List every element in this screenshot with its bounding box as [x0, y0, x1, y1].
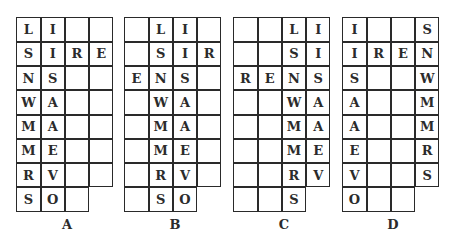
- letter-cell: I: [41, 42, 65, 66]
- letter-cell: R: [197, 42, 221, 66]
- letter-cell: E: [89, 42, 113, 66]
- letter-cell: N: [415, 42, 439, 66]
- letter-cell: M: [149, 139, 173, 163]
- letter-cell: W: [282, 90, 306, 114]
- empty-cell: [391, 17, 415, 41]
- empty-cell: [124, 90, 148, 114]
- empty-cell: [197, 66, 221, 90]
- letter-cell: M: [16, 139, 40, 163]
- letter-cell: R: [149, 163, 173, 187]
- grid-label: D: [343, 217, 443, 232]
- grid-cells: LISIRENSWAMAMERVS: [234, 18, 331, 213]
- empty-cell: [124, 139, 148, 163]
- letter-cell: M: [415, 115, 439, 139]
- letter-cell: I: [306, 17, 330, 41]
- letter-cell: R: [233, 66, 257, 90]
- letter-cell: A: [173, 90, 197, 114]
- empty-cell: [89, 90, 113, 114]
- letter-cell: S: [282, 187, 306, 211]
- empty-cell: [124, 17, 148, 41]
- empty-cell: [89, 139, 113, 163]
- letter-cell: E: [173, 139, 197, 163]
- letter-cell: N: [282, 66, 306, 90]
- empty-cell: [124, 115, 148, 139]
- letter-cell: M: [282, 139, 306, 163]
- empty-cell: [124, 187, 148, 211]
- empty-cell: [65, 139, 89, 163]
- letter-cell: V: [306, 163, 330, 187]
- empty-cell: [197, 115, 221, 139]
- empty-cell: [391, 139, 415, 163]
- empty-cell: [89, 163, 113, 187]
- letter-cell: N: [16, 66, 40, 90]
- letter-cell: E: [41, 139, 65, 163]
- empty-cell: [89, 17, 113, 41]
- empty-cell: [65, 66, 89, 90]
- letter-cell: E: [124, 66, 148, 90]
- empty-cell: [65, 90, 89, 114]
- letter-cell: M: [415, 90, 439, 114]
- letter-cell: S: [415, 163, 439, 187]
- grid-label: A: [17, 217, 117, 232]
- letter-cell: O: [173, 187, 197, 211]
- empty-cell: [124, 42, 148, 66]
- empty-cell: [65, 187, 89, 211]
- empty-cell: [233, 139, 257, 163]
- empty-cell: [391, 163, 415, 187]
- empty-cell: [65, 17, 89, 41]
- empty-cell: [258, 115, 282, 139]
- letter-cell: L: [149, 17, 173, 41]
- puzzle-grid-d: ISIRENSWAMAMERVSO D: [343, 18, 443, 213]
- empty-cell: [197, 17, 221, 41]
- empty-cell: [258, 187, 282, 211]
- puzzle-grid-c: LISIRENSWAMAMERVS C: [234, 18, 334, 213]
- empty-cell: [367, 90, 391, 114]
- empty-cell: [89, 66, 113, 90]
- empty-cell: [258, 139, 282, 163]
- letter-cell: W: [149, 90, 173, 114]
- letter-cell: L: [282, 17, 306, 41]
- letter-cell: M: [282, 115, 306, 139]
- letter-cell: S: [149, 187, 173, 211]
- letter-cell: S: [149, 42, 173, 66]
- letter-cell: O: [342, 187, 366, 211]
- letter-cell: V: [41, 163, 65, 187]
- letter-cell: W: [16, 90, 40, 114]
- letter-cell: S: [16, 42, 40, 66]
- letter-cell: A: [41, 90, 65, 114]
- letter-cell: A: [41, 115, 65, 139]
- letter-cell: I: [173, 17, 197, 41]
- letter-cell: I: [342, 42, 366, 66]
- empty-cell: [367, 66, 391, 90]
- grid-cells: LISIRENSWAMAMERVSO: [17, 18, 114, 213]
- empty-cell: [65, 115, 89, 139]
- empty-cell: [367, 139, 391, 163]
- empty-cell: [367, 115, 391, 139]
- empty-cell: [391, 90, 415, 114]
- letter-cell: E: [258, 66, 282, 90]
- puzzle-grid-a: LISIRENSWAMAMERVSO A: [17, 18, 117, 213]
- letter-cell: S: [342, 66, 366, 90]
- letter-cell: A: [342, 90, 366, 114]
- empty-cell: [197, 139, 221, 163]
- empty-cell: [258, 163, 282, 187]
- empty-cell: [233, 163, 257, 187]
- empty-cell: [197, 90, 221, 114]
- letter-cell: S: [41, 66, 65, 90]
- empty-cell: [197, 163, 221, 187]
- empty-cell: [258, 90, 282, 114]
- grid-label: B: [125, 217, 225, 232]
- letter-cell: S: [415, 17, 439, 41]
- letter-cell: I: [306, 42, 330, 66]
- letter-cell: S: [16, 187, 40, 211]
- grid-cells: LISIRENSWAMAMERVSO: [125, 18, 222, 213]
- letter-cell: I: [173, 42, 197, 66]
- empty-cell: [391, 66, 415, 90]
- letter-cell: N: [149, 66, 173, 90]
- letter-cell: V: [342, 163, 366, 187]
- letter-cell: R: [65, 42, 89, 66]
- letter-cell: R: [282, 163, 306, 187]
- letter-cell: L: [16, 17, 40, 41]
- letter-cell: O: [41, 187, 65, 211]
- letter-cell: S: [282, 42, 306, 66]
